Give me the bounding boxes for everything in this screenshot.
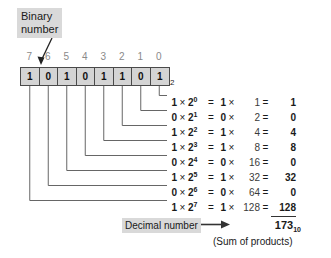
eq4-weight: 16 — [237, 155, 260, 170]
decimal-number-arrow — [196, 221, 230, 229]
eq0-product: 1 — [271, 95, 296, 110]
eq3-product: 8 — [271, 140, 296, 155]
eq4-equals: = — [205, 155, 217, 170]
bit-position-4: 4 — [76, 51, 95, 63]
bit-cell-4: 0 — [77, 68, 96, 85]
eq3-times2: × — [226, 140, 237, 155]
bit-position-1: 1 — [131, 51, 150, 63]
binary-number-label: Binary number — [17, 8, 62, 38]
eq6-equals: = — [205, 185, 217, 200]
eq3-equals2: = — [260, 140, 271, 155]
eq5-times: × — [177, 170, 188, 185]
eq7-value: 1 — [217, 200, 226, 215]
decimal-total-subscript: 10 — [293, 226, 301, 233]
bit-position-3: 3 — [94, 51, 113, 63]
bit-cell-7: 1 — [21, 68, 40, 85]
eq4-value: 0 — [217, 155, 226, 170]
eq3-equals: = — [205, 140, 217, 155]
eq2-equals: = — [205, 125, 217, 140]
eq4-equals2: = — [260, 155, 271, 170]
equation-list: 1 × 20 = 1 × 1 = 1 0 × 21 = 0 × 2 = 0 1 … — [168, 92, 296, 212]
decimal-number-label: Decimal number — [122, 218, 201, 233]
eq3-value: 1 — [217, 140, 226, 155]
eq5-product: 32 — [271, 170, 296, 185]
eq2-times: × — [177, 125, 188, 140]
eq5-weight: 32 — [237, 170, 260, 185]
eq4-product: 0 — [271, 155, 296, 170]
binary-base-subscript: 2 — [170, 78, 174, 87]
sum-of-products-note: (Sum of products) — [213, 235, 292, 248]
bit-cell-1: 0 — [132, 68, 151, 85]
eq6-value: 0 — [217, 185, 226, 200]
eq2-times2: × — [226, 125, 237, 140]
eq4-times: × — [177, 155, 188, 170]
eq3-times: × — [177, 140, 188, 155]
eq6-times: × — [177, 185, 188, 200]
eq1-equals2: = — [260, 110, 271, 125]
eq1-equals: = — [205, 110, 217, 125]
eq1-weight: 2 — [237, 110, 260, 125]
bit-cell-5: 1 — [58, 68, 77, 85]
eq7-power: 27 — [188, 197, 205, 215]
eq7-equals2: = — [260, 200, 271, 215]
equation-row-0: 1 × 20 = 1 × 1 = 1 — [168, 92, 296, 107]
eq1-product: 0 — [271, 110, 296, 125]
bit-leader-lines — [30, 84, 167, 201]
eq5-times2: × — [226, 170, 237, 185]
eq6-weight: 64 — [237, 185, 260, 200]
binary-to-decimal-diagram: Binary number 7 6 5 4 3 2 1 0 1 0 1 0 1 … — [0, 0, 331, 258]
binary-digit-row: 1 0 1 0 1 1 0 1 — [20, 67, 170, 86]
eq2-value: 1 — [217, 125, 226, 140]
eq6-equals2: = — [260, 185, 271, 200]
decimal-total-number: 173 — [275, 219, 293, 231]
eq4-times2: × — [226, 155, 237, 170]
eq7-times2: × — [226, 200, 237, 215]
eq2-weight: 4 — [237, 125, 260, 140]
eq7-equals: = — [205, 200, 217, 215]
bit-position-2: 2 — [113, 51, 132, 63]
bit-cell-6: 0 — [40, 68, 59, 85]
bit-position-6: 6 — [39, 51, 58, 63]
eq2-product: 4 — [271, 125, 296, 140]
eq5-equals2: = — [260, 170, 271, 185]
bit-position-0: 0 — [150, 51, 169, 63]
eq1-times: × — [177, 110, 188, 125]
eq0-times2: × — [226, 95, 237, 110]
eq6-product: 0 — [271, 185, 296, 200]
eq5-equals: = — [205, 170, 217, 185]
eq1-bit: 0 — [168, 110, 177, 125]
eq0-value: 1 — [217, 95, 226, 110]
eq5-bit: 1 — [168, 170, 177, 185]
eq7-product: 128 — [271, 200, 296, 217]
bit-cell-0: 1 — [151, 68, 170, 85]
eq0-weight: 1 — [237, 95, 260, 110]
bit-cell-3: 1 — [95, 68, 114, 85]
eq7-bit: 1 — [168, 200, 177, 215]
bit-position-5: 5 — [57, 51, 76, 63]
eq0-times: × — [177, 95, 188, 110]
eq0-bit: 1 — [168, 95, 177, 110]
eq5-value: 1 — [217, 170, 226, 185]
eq6-bit: 0 — [168, 185, 177, 200]
eq1-value: 0 — [217, 110, 226, 125]
eq4-bit: 0 — [168, 155, 177, 170]
eq7-times: × — [177, 200, 188, 215]
eq3-bit: 1 — [168, 140, 177, 155]
bit-cell-2: 1 — [114, 68, 133, 85]
eq7-weight: 128 — [237, 200, 260, 215]
eq0-equals2: = — [260, 95, 271, 110]
eq2-bit: 1 — [168, 125, 177, 140]
eq0-equals: = — [205, 95, 217, 110]
bit-position-7: 7 — [20, 51, 39, 63]
eq1-times2: × — [226, 110, 237, 125]
eq3-weight: 8 — [237, 140, 260, 155]
eq6-times2: × — [226, 185, 237, 200]
eq2-equals2: = — [260, 125, 271, 140]
bit-position-labels: 7 6 5 4 3 2 1 0 — [20, 51, 168, 63]
